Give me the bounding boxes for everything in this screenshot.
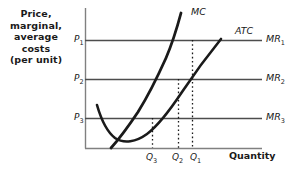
- x-tick-q2: Q2: [172, 152, 183, 165]
- mr2-label: MR2: [266, 72, 285, 86]
- mc-curve: [111, 13, 181, 148]
- mc-curve-label: MC: [191, 6, 206, 17]
- mr3-label: MR3: [266, 111, 285, 125]
- atc-curve: [97, 39, 221, 141]
- x-tick-q1: Q1: [190, 152, 201, 165]
- x-axis-title: Quantity: [229, 150, 276, 161]
- mr1-label: MR1: [266, 33, 285, 47]
- atc-curve-label: ATC: [235, 25, 253, 36]
- cost-curve-figure: Price, marginal, average costs (per unit…: [0, 0, 304, 177]
- y-tick-p1: P1: [74, 34, 84, 47]
- y-tick-p3: P3: [74, 112, 84, 125]
- y-tick-p2: P2: [74, 73, 84, 86]
- x-tick-q3: Q3: [146, 152, 157, 165]
